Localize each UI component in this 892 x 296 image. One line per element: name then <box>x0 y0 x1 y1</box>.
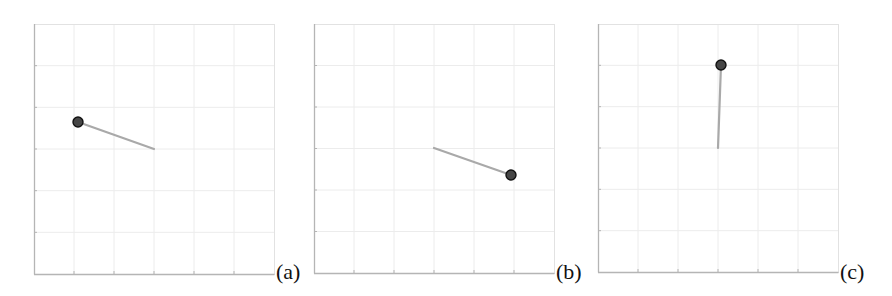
panel-label-c: (c) <box>840 261 864 283</box>
panel-c: (c) <box>0 0 892 296</box>
pendulum-plot-c <box>0 0 892 296</box>
pendulum-bob-icon <box>716 60 726 70</box>
